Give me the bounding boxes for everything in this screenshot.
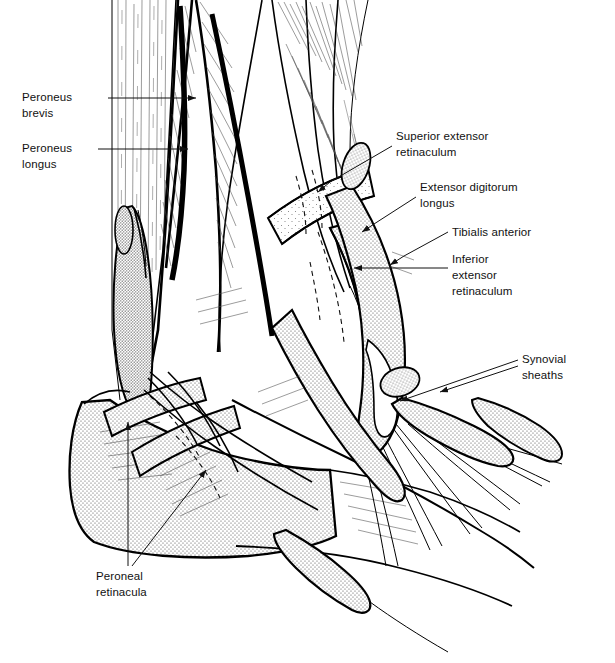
- ankle-anatomy-illustration: Peroneus brevis Peroneus longus Superior…: [0, 0, 615, 663]
- label-peroneus-longus-line-1: Peroneus: [22, 142, 72, 154]
- label-peroneal-retinacula-line-1: Peroneal: [96, 570, 143, 582]
- label-peroneal-retinacula-line-2: retinacula: [96, 586, 147, 598]
- label-peroneus-brevis-line-1: Peroneus: [22, 91, 72, 103]
- anatomical-figure: Peroneus brevis Peroneus longus Superior…: [0, 0, 615, 663]
- label-inferior-extensor-retinaculum-line-3: retinaculum: [452, 285, 513, 297]
- label-tibialis-anterior-line-1: Tibialis anterior: [452, 226, 531, 238]
- label-superior-extensor-retinaculum-line-2: retinaculum: [396, 146, 457, 158]
- label-extensor-digitorum-longus-line-1: Extensor digitorum: [420, 181, 518, 193]
- label-synovial-sheaths-line-1: Synovial: [522, 353, 566, 365]
- label-inferior-extensor-retinaculum-line-2: extensor: [452, 269, 497, 281]
- label-superior-extensor-retinaculum-line-1: Superior extensor: [396, 130, 489, 142]
- label-peroneus-longus-line-2: longus: [22, 158, 57, 170]
- label-inferior-extensor-retinaculum-line-1: Inferior: [452, 253, 489, 265]
- label-extensor-digitorum-longus-line-2: longus: [420, 197, 455, 209]
- label-synovial-sheaths-line-2: sheaths: [522, 369, 563, 381]
- label-peroneus-brevis-line-2: brevis: [22, 107, 53, 119]
